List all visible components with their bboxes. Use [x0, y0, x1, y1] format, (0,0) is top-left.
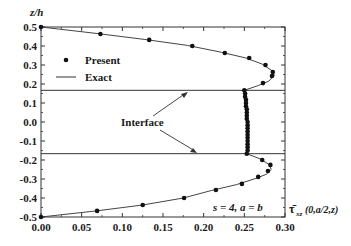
- present-data-point: [182, 196, 187, 201]
- y-tick-label: 0.0: [23, 116, 37, 128]
- x-tick-label: 0.30: [275, 221, 295, 233]
- y-tick-label: 0.3: [23, 59, 37, 71]
- legend: Present Exact: [56, 54, 121, 83]
- x-tick-label: 0.15: [153, 221, 173, 233]
- y-tick-label: -0.3: [20, 173, 38, 185]
- present-data-point: [214, 188, 219, 193]
- present-data-point: [261, 81, 266, 86]
- y-tick-label: -0.2: [20, 154, 38, 166]
- present-data-point: [95, 209, 100, 214]
- y-tick-label: 0.5: [23, 21, 37, 33]
- x-tick-label: 0.10: [113, 221, 133, 233]
- params-annotation: s = 4, a = b: [212, 201, 263, 213]
- chart: 0.000.050.100.150.200.250.300.50.40.30.2…: [0, 0, 351, 246]
- present-data-point: [263, 63, 268, 68]
- present-data-point: [147, 38, 152, 43]
- present-data-point: [268, 163, 273, 168]
- x-axis-title-sub: xz: [295, 210, 303, 218]
- y-tick-label: 0.2: [23, 78, 37, 90]
- y-tick-label: -0.5: [20, 211, 38, 223]
- y-axis-title: z/h: [29, 6, 43, 18]
- legend-exact-label: Exact: [85, 71, 112, 83]
- present-data-point: [247, 56, 252, 61]
- interface-annotation: Interface: [121, 92, 197, 153]
- legend-present-label: Present: [85, 54, 121, 66]
- x-axis-title-args: (0,a/2,z): [305, 204, 338, 216]
- present-data-point: [39, 215, 44, 220]
- x-tick-label: 0.05: [72, 221, 92, 233]
- present-data-point: [39, 25, 44, 30]
- present-data-point: [245, 151, 250, 156]
- present-data-point: [266, 169, 271, 174]
- interface-label: Interface: [121, 116, 164, 128]
- present-data-point: [140, 203, 145, 208]
- present-data-point: [260, 158, 265, 163]
- present-data-point: [98, 32, 103, 37]
- x-tick-label: 0.25: [235, 221, 255, 233]
- legend-present-marker: [64, 58, 69, 63]
- y-tick-label: 0.4: [23, 40, 37, 52]
- x-tick-label: 0.20: [194, 221, 214, 233]
- arrow-head-icon: [181, 92, 188, 98]
- present-data-point: [190, 44, 195, 49]
- present-data-point: [271, 70, 276, 75]
- present-data-point: [240, 182, 245, 187]
- y-tick-label: -0.4: [20, 192, 38, 204]
- y-tick-label: 0.1: [23, 97, 37, 109]
- y-tick-label: -0.1: [20, 135, 37, 147]
- interface-arrow-up: [153, 93, 186, 116]
- present-data-point: [270, 74, 275, 79]
- present-data-point: [256, 175, 261, 180]
- present-data-point: [223, 51, 228, 56]
- x-axis-title: τ̄ xz (0,a/2,z): [289, 202, 338, 218]
- interface-arrow-down: [160, 130, 195, 151]
